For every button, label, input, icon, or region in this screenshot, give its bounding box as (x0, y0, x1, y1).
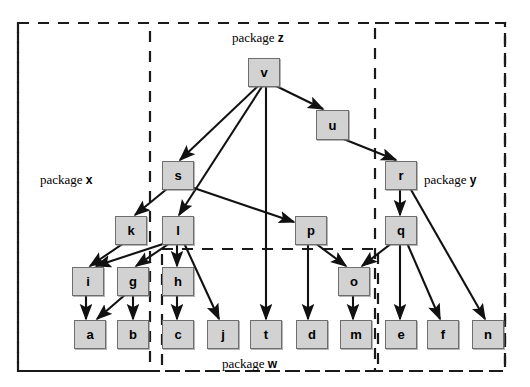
node-j[interactable]: j (207, 320, 239, 349)
package-label-z: package z (232, 30, 284, 46)
package-label-name: x (86, 173, 93, 187)
node-s[interactable]: s (162, 161, 194, 190)
package-label-w: package w (222, 356, 277, 372)
node-i[interactable]: i (72, 267, 104, 296)
node-a[interactable]: a (74, 320, 106, 349)
node-h[interactable]: h (162, 267, 194, 296)
node-f[interactable]: f (427, 320, 459, 349)
node-n[interactable]: n (472, 320, 504, 349)
node-v[interactable]: v (248, 58, 280, 87)
edge-s-to-k (135, 188, 168, 215)
package-label-name: w (268, 357, 277, 371)
node-m[interactable]: m (340, 320, 372, 349)
node-g[interactable]: g (117, 267, 149, 296)
package-label-y: package y (424, 172, 477, 188)
node-p[interactable]: p (295, 216, 327, 245)
package-label-prefix: package (232, 30, 275, 45)
node-d[interactable]: d (296, 320, 328, 349)
node-e[interactable]: e (385, 320, 417, 349)
edge-v-to-s (180, 85, 259, 160)
package-label-prefix: package (40, 172, 83, 187)
package-label-x: package x (40, 172, 93, 188)
node-q[interactable]: q (385, 216, 417, 245)
diagram-canvas: vusrklpqighoabcjtdmefn package zpackage … (0, 0, 530, 387)
edge-g-to-a (97, 294, 126, 319)
package-label-name: y (470, 173, 477, 187)
edge-u-to-r (341, 138, 396, 160)
node-l[interactable]: l (162, 216, 194, 245)
edge-p-to-o (315, 243, 346, 266)
package-label-prefix: package (424, 172, 467, 187)
package-boundary-x (18, 23, 150, 371)
node-c[interactable]: c (162, 320, 194, 349)
edge-v-to-u (274, 85, 323, 109)
node-r[interactable]: r (385, 161, 417, 190)
node-o[interactable]: o (338, 267, 370, 296)
package-label-name: z (278, 31, 284, 45)
node-t[interactable]: t (250, 320, 282, 349)
node-u[interactable]: u (316, 110, 349, 140)
edge-q-to-f (407, 243, 440, 319)
node-k[interactable]: k (115, 216, 147, 245)
edge-r-to-n (410, 188, 485, 319)
edge-s-to-p (188, 186, 294, 222)
node-b[interactable]: b (117, 320, 149, 349)
package-label-prefix: package (222, 356, 265, 371)
